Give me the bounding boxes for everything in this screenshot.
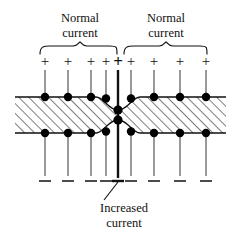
plus-sign-left-1: + xyxy=(41,53,49,69)
figure-canvas: + + + + + + + + + xyxy=(0,0,236,230)
plus-sign-left-3: + xyxy=(87,53,95,69)
contact-node-top xyxy=(202,93,210,101)
contact-node-bottom xyxy=(41,129,49,137)
contact-node-bottom xyxy=(102,127,110,135)
label-increased-current: Increased current xyxy=(100,201,149,230)
label-normal-current-right-line2: current xyxy=(148,26,184,40)
label-increased-current-line2: current xyxy=(106,216,142,230)
brace-right xyxy=(124,42,207,54)
label-normal-current-right-line1: Normal xyxy=(147,11,186,25)
plus-sign-row: + + + + + + + + + xyxy=(41,52,210,71)
electrode-center-increased xyxy=(113,70,122,178)
label-normal-current-left: Normal current xyxy=(61,11,100,40)
contact-node-top xyxy=(102,94,110,102)
contact-node-top xyxy=(64,93,72,101)
contact-node-center-top xyxy=(113,105,122,114)
contact-node-top xyxy=(41,93,49,101)
label-increased-current-line1: Increased xyxy=(100,201,149,215)
contact-node-bottom xyxy=(150,129,158,137)
brace-right-path xyxy=(124,42,207,54)
current-distribution-diagram: + + + + + + + + + xyxy=(0,0,236,230)
leader-line-increased-current xyxy=(104,182,118,200)
label-normal-current-right: Normal current xyxy=(147,11,186,40)
plus-sign-right-1: + xyxy=(127,53,135,69)
contact-node-bottom xyxy=(64,129,72,137)
contact-node-top xyxy=(127,94,135,102)
plus-sign-right-4: + xyxy=(202,53,210,69)
contact-node-center-bottom xyxy=(113,115,122,124)
conductor-band-fill xyxy=(15,97,226,133)
contact-node-bottom xyxy=(127,127,135,135)
conductor-band xyxy=(15,97,226,133)
plus-sign-center-increased: + xyxy=(113,52,123,71)
contact-node-top xyxy=(176,93,184,101)
contact-node-bottom xyxy=(202,129,210,137)
contact-node-top xyxy=(150,93,158,101)
contact-node-bottom xyxy=(176,129,184,137)
label-normal-current-left-line2: current xyxy=(62,26,98,40)
plus-sign-right-3: + xyxy=(176,53,184,69)
plus-sign-left-2: + xyxy=(64,53,72,69)
plus-sign-right-2: + xyxy=(150,53,158,69)
plus-sign-left-4: + xyxy=(102,53,110,69)
contact-node-bottom xyxy=(87,129,95,137)
label-normal-current-left-line1: Normal xyxy=(61,11,100,25)
contact-node-top xyxy=(87,93,95,101)
